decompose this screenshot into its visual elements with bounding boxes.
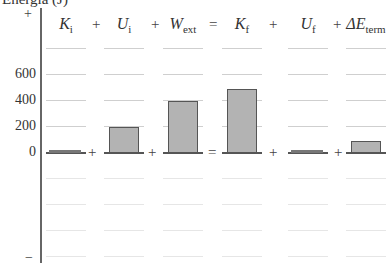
gridline <box>104 204 144 205</box>
gridline <box>346 48 386 49</box>
gridline <box>288 100 328 101</box>
axis-top-sign: + <box>24 6 32 22</box>
column-ui: Ui <box>104 0 144 267</box>
axis-bottom-sign: − <box>25 250 33 266</box>
header-ui: Ui <box>104 15 144 35</box>
gridline <box>222 230 262 231</box>
gridline <box>46 230 86 231</box>
gridline <box>346 178 386 179</box>
header-op-5: + <box>333 16 341 33</box>
gridline <box>346 100 386 101</box>
gridline <box>222 48 262 49</box>
baseline-op-1: + <box>88 144 96 161</box>
gridline <box>46 178 86 179</box>
gridline <box>346 204 386 205</box>
gridline <box>288 230 328 231</box>
gridline <box>104 74 144 75</box>
baseline-op-3: = <box>208 144 216 161</box>
gridline <box>163 48 203 49</box>
header-wext: Wext <box>163 15 203 35</box>
gridline <box>163 74 203 75</box>
gridline <box>288 48 328 49</box>
gridline <box>104 256 144 257</box>
gridline <box>288 204 328 205</box>
energy-bar <box>291 150 323 153</box>
gridline <box>222 178 262 179</box>
header-delta-eterm: ΔEterm <box>346 15 386 35</box>
baseline-op-5: + <box>334 144 342 161</box>
header-uf: Uf <box>288 15 328 35</box>
gridline <box>46 126 86 127</box>
column-uf: Uf <box>288 0 328 267</box>
gridline <box>288 126 328 127</box>
gridline <box>222 204 262 205</box>
gridline <box>288 74 328 75</box>
y-tick-400: 400 <box>8 92 36 108</box>
gridline <box>46 204 86 205</box>
gridline <box>288 178 328 179</box>
column-ki: Ki <box>46 0 86 267</box>
header-kf: Kf <box>222 15 262 35</box>
baseline-op-2: + <box>148 144 156 161</box>
gridline <box>163 204 203 205</box>
gridline <box>288 256 328 257</box>
header-op-1: + <box>92 16 100 33</box>
gridline <box>46 48 86 49</box>
y-tick-200: 200 <box>8 118 36 134</box>
gridline <box>46 74 86 75</box>
column-wext: Wext <box>163 0 203 267</box>
gridline <box>104 178 144 179</box>
gridline <box>104 48 144 49</box>
energy-bar <box>109 127 139 153</box>
gridline <box>346 74 386 75</box>
header-op-2: + <box>151 16 159 33</box>
gridline <box>346 230 386 231</box>
y-tick-0: 0 <box>8 144 36 160</box>
baseline-op-4: + <box>269 144 277 161</box>
gridline <box>222 256 262 257</box>
header-op-3: = <box>209 16 217 33</box>
y-axis <box>40 8 42 263</box>
gridline <box>163 230 203 231</box>
column-delta-eterm: ΔEterm <box>346 0 386 267</box>
gridline <box>163 178 203 179</box>
gridline <box>163 256 203 257</box>
gridline <box>46 100 86 101</box>
gridline <box>104 100 144 101</box>
energy-bar <box>351 141 381 153</box>
header-ki: Ki <box>46 15 86 35</box>
gridline <box>46 256 86 257</box>
y-tick-600: 600 <box>8 66 36 82</box>
header-op-4: + <box>269 16 277 33</box>
energy-bar <box>49 150 81 153</box>
column-kf: Kf <box>222 0 262 267</box>
gridline <box>346 126 386 127</box>
gridline <box>104 230 144 231</box>
energy-bar <box>168 101 198 153</box>
energy-bar <box>227 89 257 153</box>
gridline <box>222 74 262 75</box>
gridline <box>346 256 386 257</box>
